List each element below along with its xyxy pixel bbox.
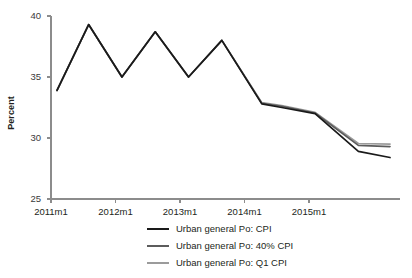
y-tick-label: 35 bbox=[19, 71, 41, 82]
legend-item: Urban general Po: Q1 CPI bbox=[0, 254, 412, 271]
legend-label: Urban general Po: 40% CPI bbox=[176, 241, 293, 251]
legend-label: Urban general Po: Q1 CPI bbox=[176, 258, 287, 268]
series-lines bbox=[57, 25, 390, 158]
legend-swatch-icon bbox=[147, 262, 169, 264]
series-line bbox=[57, 25, 390, 158]
x-tick-label: 2011m1 bbox=[34, 206, 68, 217]
y-tick-label: 25 bbox=[19, 193, 41, 204]
legend-item: Urban general Po: CPI bbox=[0, 220, 412, 237]
y-tick-label: 40 bbox=[19, 10, 41, 21]
y-axis-title: Percent bbox=[1, 78, 21, 148]
chart-figure: Percent 25303540 2011m12012m12013m12014m… bbox=[0, 0, 412, 278]
legend-swatch-icon bbox=[147, 245, 169, 247]
y-axis-title-text: Percent bbox=[6, 96, 16, 130]
legend-swatch-icon bbox=[147, 228, 169, 230]
legend-label: Urban general Po: CPI bbox=[176, 224, 272, 234]
tick-marks bbox=[47, 16, 309, 203]
legend-item: Urban general Po: 40% CPI bbox=[0, 237, 412, 254]
x-tick-label: 2012m1 bbox=[98, 206, 132, 217]
chart-legend: Urban general Po: CPIUrban general Po: 4… bbox=[0, 220, 412, 271]
x-tick-label: 2013m1 bbox=[163, 206, 197, 217]
x-tick-label: 2015m1 bbox=[292, 206, 326, 217]
x-tick-label: 2014m1 bbox=[227, 206, 261, 217]
axis-lines bbox=[51, 16, 400, 199]
y-tick-label: 30 bbox=[19, 132, 41, 143]
